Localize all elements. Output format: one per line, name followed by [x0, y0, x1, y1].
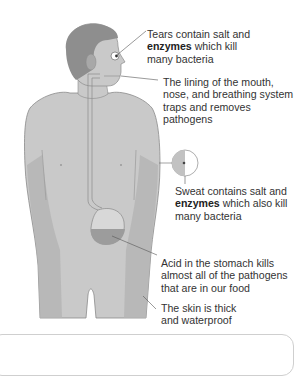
acid-label: Acid in the stomach kills almost all of … — [161, 257, 288, 294]
lining-label: The lining of the mouth, nose, and breat… — [163, 76, 293, 126]
tears-label: Tears contain salt and enzymes which kil… — [147, 28, 250, 65]
lining-leader — [121, 76, 158, 80]
ear — [86, 54, 96, 70]
skin-label: The skin is thick and waterproof — [161, 302, 236, 327]
tears-leader — [117, 31, 146, 55]
sweat-label: Sweat contains salt and enzymes which al… — [175, 185, 287, 222]
bottom-panel-border — [0, 334, 294, 376]
